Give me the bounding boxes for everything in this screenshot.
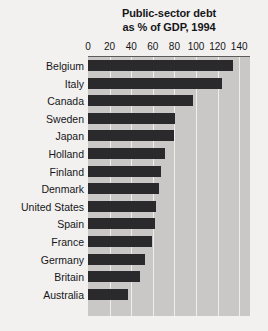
- chart-title: Public-sector debt as % of GDP, 1994: [88, 7, 250, 34]
- category-label: Australia: [0, 290, 84, 301]
- category-label: Britain: [0, 272, 84, 283]
- bar: [88, 130, 174, 141]
- gridline-120: [218, 57, 219, 316]
- x-tick-label-80: 80: [169, 41, 180, 53]
- gridline-100: [196, 57, 197, 316]
- chart-figure: Public-sector debt as % of GDP, 1994 020…: [0, 0, 268, 331]
- bar: [88, 78, 222, 89]
- category-label: Spain: [0, 219, 84, 230]
- x-tick-label-60: 60: [147, 41, 158, 53]
- category-label: Holland: [0, 149, 84, 160]
- gridline-140: [239, 57, 240, 316]
- bar: [88, 218, 155, 229]
- category-label: Sweden: [0, 114, 84, 125]
- category-label: Italy: [0, 79, 84, 90]
- category-label: Denmark: [0, 184, 84, 195]
- category-label: Canada: [0, 96, 84, 107]
- chart-title-line-2: as % of GDP, 1994: [88, 21, 250, 35]
- bar: [88, 95, 193, 106]
- bar: [88, 289, 128, 300]
- bar: [88, 236, 152, 247]
- category-label: Germany: [0, 255, 84, 266]
- bar: [88, 148, 165, 159]
- x-axis-tick-labels: 020406080100120140: [88, 41, 250, 55]
- x-tick-label-20: 20: [104, 41, 115, 53]
- x-tick-label-0: 0: [85, 41, 91, 53]
- bar: [88, 201, 156, 212]
- plot-area: [88, 57, 250, 316]
- x-tick-label-140: 140: [231, 41, 248, 53]
- bar: [88, 166, 161, 177]
- category-label: Japan: [0, 131, 84, 142]
- x-tick-label-40: 40: [126, 41, 137, 53]
- category-label: Belgium: [0, 61, 84, 72]
- y-axis-category-labels: BelgiumItalyCanadaSwedenJapanHollandFinl…: [0, 57, 84, 316]
- category-label: United States: [0, 202, 84, 213]
- category-label: France: [0, 237, 84, 248]
- bar: [88, 113, 175, 124]
- bar: [88, 254, 145, 265]
- chart-title-line-1: Public-sector debt: [88, 7, 250, 21]
- bar: [88, 271, 140, 282]
- x-tick-label-100: 100: [188, 41, 205, 53]
- bar: [88, 60, 233, 71]
- bar: [88, 183, 159, 194]
- category-label: Finland: [0, 167, 84, 178]
- x-tick-label-120: 120: [209, 41, 226, 53]
